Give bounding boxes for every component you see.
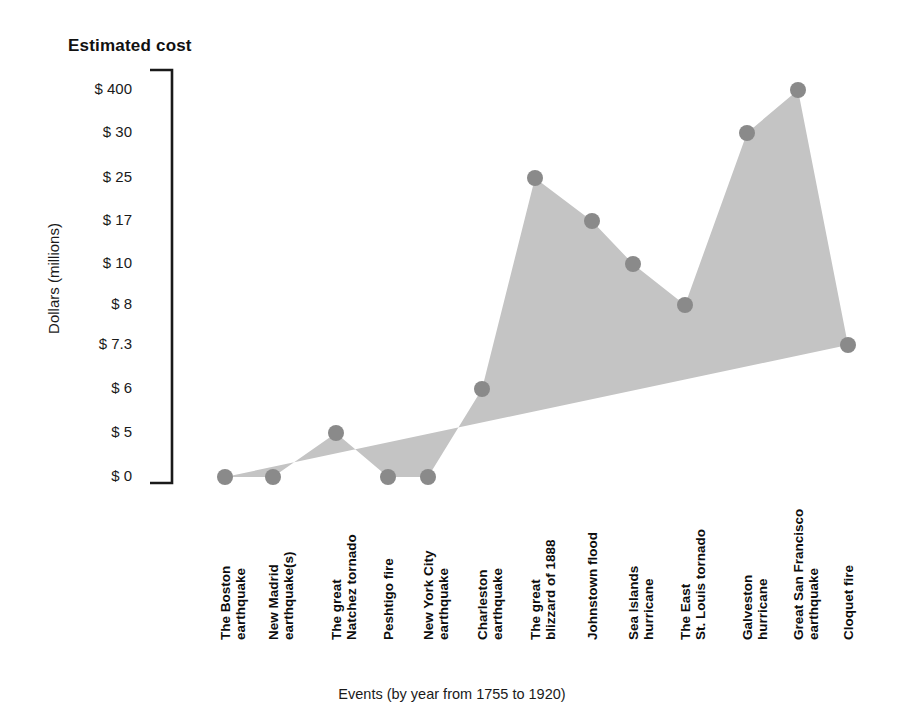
data-point-marker (217, 469, 233, 485)
y-axis-bracket (150, 70, 172, 483)
data-point-marker (420, 469, 436, 485)
data-point-marker (584, 213, 600, 229)
data-point-marker (380, 469, 396, 485)
data-point-marker (739, 125, 755, 141)
area-series (225, 90, 848, 477)
data-point-marker (474, 381, 490, 397)
data-point-marker (790, 82, 806, 98)
data-point-marker (840, 337, 856, 353)
data-point-marker (527, 170, 543, 186)
data-point-marker (677, 297, 693, 313)
data-point-marker (265, 469, 281, 485)
data-point-marker (328, 425, 344, 441)
data-point-marker (625, 256, 641, 272)
plot-area (0, 0, 904, 726)
chart-canvas: Estimated cost Dollars (millions) Events… (0, 0, 904, 726)
